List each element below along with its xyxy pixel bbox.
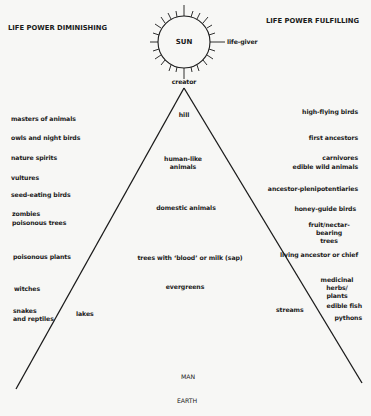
left-item-lakes: lakes (76, 310, 94, 318)
header-life-power-fulfilling: LIFE POWER FULFILLING (266, 17, 359, 25)
right-item-medicinal-herbs-plants: medicinal herbs/ plants (320, 276, 354, 300)
axis-label-man: MAN (181, 373, 195, 381)
left-item-snakes-and-reptiles: snakes and reptiles (13, 307, 54, 323)
right-item-living-ancestor-or-chief: living ancestor or chief (280, 251, 358, 259)
left-item-owls-and-night-birds: owls and night birds (11, 134, 80, 142)
life-giver-label: life-giver (227, 38, 258, 46)
axis-label-earth: EARTH (177, 397, 197, 405)
right-item-first-ancestors: first ancestors (309, 134, 358, 142)
center-item-trees-with-blood: trees with ‘blood’ or milk (sap) (137, 254, 242, 262)
right-item-high-flying-birds: high-flying birds (302, 108, 358, 116)
right-item-edible-wild-animals: edible wild animals (293, 163, 358, 171)
right-item-carnivores: carnivores (322, 154, 358, 162)
center-item-evergreens: evergreens (166, 283, 204, 291)
center-item-human-like-animals: human-like animals (164, 155, 202, 171)
header-life-power-diminishing: LIFE POWER DIMINISHING (8, 24, 107, 32)
left-item-seed-eating-birds: seed-eating birds (11, 191, 71, 199)
left-item-vultures: vultures (11, 174, 39, 182)
right-item-edible-fish: edible fish (327, 302, 362, 310)
center-item-domestic-animals: domestic animals (156, 204, 215, 212)
right-item-fruit-nectar-bearing-trees: fruit/nectar-bearing trees (308, 221, 350, 245)
left-item-witches: witches (14, 285, 40, 293)
sun-label: SUN (176, 38, 192, 46)
left-item-poisonous-plants: poisonous plants (13, 253, 71, 261)
center-item-hill: hill (179, 111, 189, 119)
right-item-streams: streams (276, 306, 304, 314)
right-item-pythons: pythons (335, 314, 362, 322)
right-item-ancestor-plenipotentiaries: ancestor-plenipotentiaries (268, 185, 358, 193)
left-item-nature-spirits: nature spirits (11, 154, 57, 162)
life-power-diagram: LIFE POWER DIMINISHING LIFE POWER FULFIL… (0, 0, 371, 416)
left-item-poisonous-trees: poisonous trees (12, 219, 66, 227)
left-item-masters-of-animals: masters of animals (11, 115, 76, 123)
left-item-zombies: zombies (12, 210, 40, 218)
creator-label: creator (172, 78, 197, 86)
right-item-honey-guide-birds: honey-guide birds (294, 205, 356, 213)
